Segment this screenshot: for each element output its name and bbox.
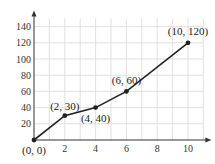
line-chart: 24681020406080100120140 (0, 0)(2, 30)(4,… xyxy=(0,0,215,164)
y-tick-label: 20 xyxy=(21,118,31,129)
point-label: (4, 40) xyxy=(81,112,111,125)
data-point xyxy=(62,113,67,118)
x-tick-label: 10 xyxy=(183,143,193,154)
data-point xyxy=(124,89,129,94)
y-tick-label: 120 xyxy=(16,37,31,48)
y-tick-label: 140 xyxy=(16,21,31,32)
point-label: (0, 0) xyxy=(22,144,46,157)
y-tick-label: 80 xyxy=(21,70,31,81)
data-point xyxy=(93,105,98,110)
y-tick-label: 40 xyxy=(21,102,31,113)
x-tick-label: 2 xyxy=(62,143,67,154)
x-axis-arrow-icon xyxy=(205,138,211,143)
y-axis-arrow-icon xyxy=(32,11,37,17)
point-labels: (0, 0)(2, 30)(4, 40)(6, 60)(10, 120) xyxy=(22,25,208,157)
point-label: (2, 30) xyxy=(50,100,80,113)
x-tick-label: 4 xyxy=(93,143,98,154)
data-point xyxy=(186,40,191,45)
y-tick-label: 60 xyxy=(21,86,31,97)
data-point xyxy=(32,138,37,143)
point-label: (10, 120) xyxy=(168,25,209,38)
x-tick-label: 6 xyxy=(124,143,129,154)
point-label: (6, 60) xyxy=(112,74,142,87)
x-tick-label: 8 xyxy=(155,143,160,154)
y-tick-label: 100 xyxy=(16,54,31,65)
